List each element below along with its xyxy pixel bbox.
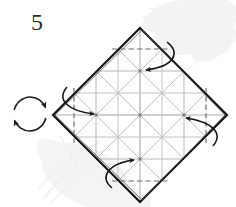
- rotate-arc-left: [14, 97, 30, 110]
- watermark: [30, 0, 236, 207]
- rotate-arc-right: [30, 118, 46, 131]
- rotate-symbol: [14, 97, 46, 131]
- rotate-arc-lower: [15, 121, 31, 132]
- rotate-arc-upper: [30, 97, 46, 108]
- origami-diagram-page: 5: [0, 0, 236, 207]
- step-number: 5: [31, 10, 43, 34]
